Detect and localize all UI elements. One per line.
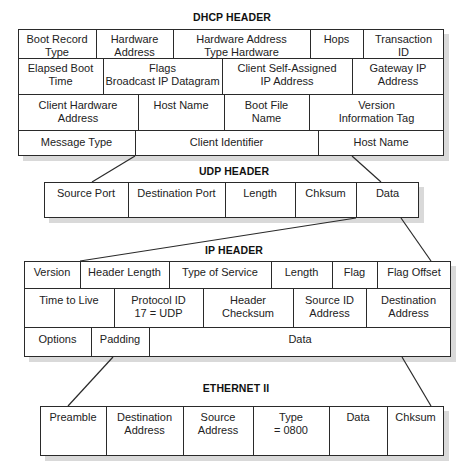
ip-field-time-to-live: Time to Live bbox=[24, 294, 114, 307]
ip-ethernet-connector-right bbox=[402, 357, 431, 406]
dhcp-field-host-name-2: Host Name bbox=[318, 136, 444, 149]
udp-field-source-port: Source Port bbox=[44, 187, 128, 200]
dhcp-field-hardware-address: Hardware Address bbox=[96, 33, 173, 58]
dhcp-udp-connector-right bbox=[352, 156, 381, 182]
ip-field-header-checksum: Header Checksum bbox=[203, 294, 293, 319]
udp-field-length: Length bbox=[225, 187, 295, 200]
dhcp-field-version-info-tag: Version Information Tag bbox=[309, 99, 444, 124]
dhcp-field-client-self-assigned-ip: Client Self-Assigned IP Address bbox=[222, 62, 352, 87]
ethernet-field-chksum: Chksum bbox=[387, 411, 444, 424]
dhcp-field-elapsed-boot-time: Elapsed Boot Time bbox=[18, 62, 103, 87]
ip-header-title: IP HEADER bbox=[184, 244, 284, 256]
dhcp-row-divider bbox=[18, 58, 444, 59]
dhcp-row-divider bbox=[18, 130, 444, 131]
ethernet-title: ETHERNET II bbox=[186, 382, 286, 394]
dhcp-field-gateway-ip: Gateway IP Address bbox=[352, 62, 444, 87]
ip-field-source-id-address: Source ID Address bbox=[293, 294, 366, 319]
dhcp-field-flags: Flags Broadcast IP Datagram bbox=[103, 62, 222, 87]
ethernet-field-source-address: Source Address bbox=[183, 411, 253, 436]
dhcp-udp-connector-left bbox=[92, 156, 135, 182]
udp-field-destination-port: Destination Port bbox=[128, 187, 225, 200]
ip-field-data: Data bbox=[149, 333, 451, 346]
udp-field-data: Data bbox=[356, 187, 419, 200]
ip-ethernet-connector-left bbox=[68, 357, 113, 406]
udp-ip-connector-right bbox=[401, 218, 431, 261]
ip-field-flag: Flag bbox=[332, 266, 377, 279]
ip-field-version: Version bbox=[24, 266, 80, 279]
dhcp-field-transaction-id: Transaction ID bbox=[363, 33, 444, 58]
ip-field-padding: Padding bbox=[91, 333, 149, 346]
ip-field-length: Length bbox=[271, 266, 332, 279]
ethernet-field-type: Type = 0800 bbox=[253, 411, 329, 436]
dhcp-field-boot-record-type: Boot Record Type bbox=[18, 33, 96, 58]
ip-field-flag-offset: Flag Offset bbox=[377, 266, 451, 279]
dhcp-field-hardware-address-type: Hardware Address Type Hardware bbox=[173, 33, 310, 58]
ip-field-type-of-service: Type of Service bbox=[169, 266, 271, 279]
dhcp-header-title: DHCP HEADER bbox=[182, 11, 282, 23]
ip-field-options: Options bbox=[24, 333, 91, 346]
dhcp-field-message-type: Message Type bbox=[18, 136, 135, 149]
dhcp-field-boot-file-name: Boot File Name bbox=[224, 99, 309, 124]
udp-field-chksum: Chksum bbox=[295, 187, 356, 200]
ethernet-field-destination-address: Destination Address bbox=[106, 411, 183, 436]
ip-field-header-length: Header Length bbox=[80, 266, 169, 279]
dhcp-field-host-name: Host Name bbox=[138, 99, 224, 112]
ip-row-divider bbox=[24, 327, 451, 328]
ethernet-field-preamble: Preamble bbox=[40, 411, 106, 424]
dhcp-field-hops: Hops bbox=[310, 33, 363, 46]
ip-row-divider bbox=[24, 288, 451, 289]
ethernet-field-data: Data bbox=[329, 411, 387, 424]
dhcp-row-divider bbox=[18, 94, 444, 95]
dhcp-field-client-identifier: Client Identifier bbox=[135, 136, 318, 149]
udp-header-title: UDP HEADER bbox=[184, 165, 284, 177]
ip-field-protocol-id: Protocol ID 17 = UDP bbox=[114, 294, 203, 319]
dhcp-field-client-hardware-address: Client Hardware Address bbox=[18, 99, 138, 124]
ip-field-destination-address: Destination Address bbox=[366, 294, 451, 319]
